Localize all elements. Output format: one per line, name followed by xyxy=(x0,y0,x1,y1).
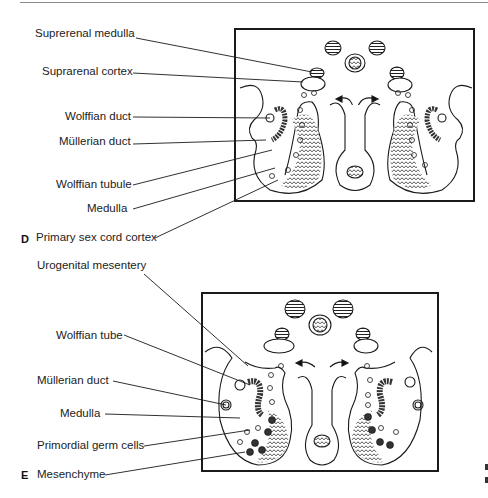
panel-d-leaders xyxy=(133,38,312,238)
embryology-diagram xyxy=(0,0,488,498)
panel-e-figure xyxy=(202,293,438,471)
panel-d-figure xyxy=(235,29,474,201)
